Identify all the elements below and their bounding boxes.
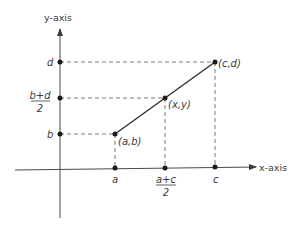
point-label-c-d: (c,d) [218,58,241,69]
y-label-d: d [47,57,54,68]
x-label-a: a [112,174,118,185]
x-label-c: c [213,174,219,185]
y-label-midpoint-fraction: b+d 2 [29,90,51,114]
point-x-y [163,96,168,101]
point-c-d [213,60,218,65]
point-label-x-y: (x,y) [168,99,191,110]
y-label-mid-denominator: 2 [37,103,43,114]
y-label-b: b [47,129,53,140]
point-a-b [113,132,118,137]
x-label-midpoint-fraction: a+c 2 [156,174,177,198]
x-label-mid-denominator: 2 [163,187,169,198]
x-axis-line [15,167,256,170]
point-label-a-b: (a,b) [118,136,141,147]
y-axis-label: y-axis [44,12,72,23]
x-tick-mid [163,166,168,171]
x-axis-label: x-axis [259,162,287,173]
midpoint-diagram: y-axis x-axis d b+d 2 b a a+c 2 c (a,b) … [0,0,292,228]
y-label-mid-numerator: b+d [29,90,51,101]
x-tick-a [113,166,118,171]
y-tick-mid [58,96,63,101]
x-label-mid-numerator: a+c [156,174,177,185]
y-tick-d [58,60,63,65]
x-tick-c [213,165,218,170]
y-tick-b [58,132,63,137]
